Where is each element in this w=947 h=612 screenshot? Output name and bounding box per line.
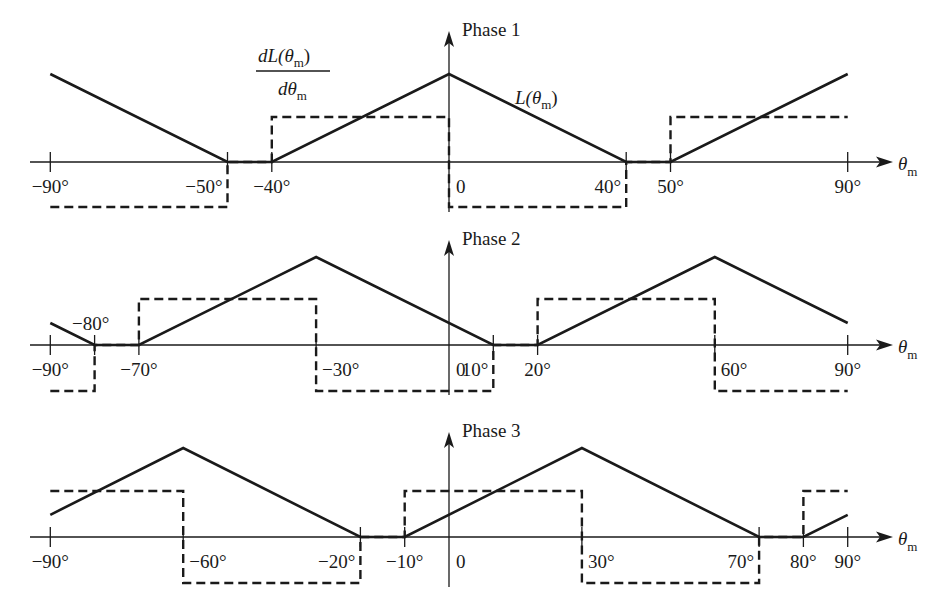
x-tick-label: 50°: [657, 176, 684, 197]
x-tick-label: −10°: [386, 551, 423, 572]
x-tick-label: −70°: [120, 359, 157, 380]
phase-1-plot: Phase 1 θm−90°−50°−40°040°50°90°: [30, 19, 917, 212]
phase-3-plot: Phase 3 θm−90°−60°−20°−10°030°70°80°90°: [30, 420, 917, 587]
x-tick-label: 70°: [727, 551, 754, 572]
x-tick-label: 0: [456, 551, 466, 572]
x-tick-label: 40°: [595, 176, 622, 197]
x-tick-label: 60°: [721, 359, 748, 380]
inductance-plots-svg: Phase 1 θm−90°−50°−40°040°50°90° Phase 2…: [0, 0, 947, 612]
x-tick-label: 30°: [588, 551, 615, 572]
x-tick-label: 90°: [834, 359, 861, 380]
x-tick-label: −80°: [72, 313, 109, 334]
x-tick-label: −90°: [32, 551, 69, 572]
x-tick-label: −90°: [32, 176, 69, 197]
derivative-denominator: dθm: [278, 78, 307, 103]
x-tick-label: −30°: [322, 359, 359, 380]
x-tick-label: 90°: [834, 176, 861, 197]
x-axis-label: θm: [898, 153, 917, 179]
phase-inductance-figure: Phase 1 θm−90°−50°−40°040°50°90° Phase 2…: [0, 0, 947, 612]
x-tick-label: 90°: [834, 551, 861, 572]
phase-1-title: Phase 1: [462, 19, 521, 40]
x-tick-label: −50°: [185, 176, 222, 197]
x-axis-label: θm: [898, 528, 917, 554]
x-tick-label: −20°: [318, 551, 355, 572]
x-tick-label: 80°: [790, 551, 817, 572]
x-tick-label: −60°: [189, 551, 226, 572]
phase-2-plot: Phase 2 θm−90°−80°−70°−30°010°20°60°90°: [30, 228, 917, 395]
x-tick-label: −90°: [32, 359, 69, 380]
phase-3-title: Phase 3: [462, 420, 521, 441]
x-tick-label: 10°: [462, 359, 489, 380]
x-tick-label: 0: [456, 176, 466, 197]
derivative-label: dL(θm) dθm: [256, 45, 330, 103]
x-tick-label: −40°: [253, 176, 290, 197]
x-axis-label: θm: [898, 336, 917, 362]
derivative-numerator: dL(θm): [258, 45, 310, 70]
x-tick-label: 20°: [524, 359, 551, 380]
phase-2-title: Phase 2: [462, 228, 521, 249]
